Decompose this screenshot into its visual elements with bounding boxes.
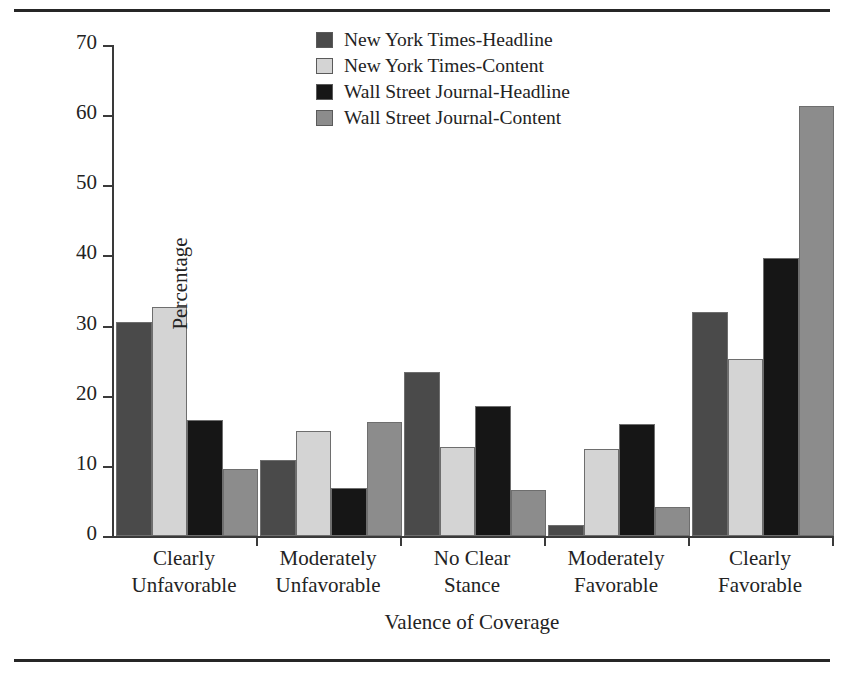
- bar: [475, 406, 511, 536]
- x-axis-label: ClearlyUnfavorable: [112, 545, 256, 599]
- x-axis-labels: ClearlyUnfavorableModeratelyUnfavorableN…: [112, 545, 832, 607]
- bar: [511, 490, 547, 536]
- y-axis-tick: 10: [103, 466, 112, 468]
- bar: [440, 447, 476, 536]
- bar: [296, 431, 332, 536]
- x-axis-label: ModeratelyUnfavorable: [256, 545, 400, 599]
- top-rule: [14, 9, 830, 12]
- y-axis-tick: 40: [103, 255, 112, 257]
- y-tick-mark: [103, 536, 112, 538]
- y-tick-label: 70: [76, 32, 97, 53]
- y-tick-mark: [103, 185, 112, 187]
- chart-figure: New York Times-Headline New York Times-C…: [0, 0, 844, 680]
- x-axis-label: ModeratelyFavorable: [544, 545, 688, 599]
- bar: [404, 372, 440, 536]
- y-tick-label: 0: [87, 523, 98, 544]
- y-axis-title: Percentage: [170, 184, 191, 384]
- x-axis-label: ClearlyFavorable: [688, 545, 832, 599]
- bar-group: [548, 45, 690, 536]
- bar: [619, 424, 655, 536]
- y-tick-mark: [103, 396, 112, 398]
- bar-groups: [112, 45, 832, 536]
- bar: [223, 469, 259, 536]
- y-axis-tick: 50: [103, 185, 112, 187]
- bottom-rule: [14, 659, 830, 662]
- y-tick-label: 60: [76, 102, 97, 123]
- x-axis-line: [112, 536, 832, 538]
- y-tick-mark: [103, 255, 112, 257]
- y-tick-label: 40: [76, 242, 97, 263]
- y-axis-tick: 60: [103, 115, 112, 117]
- bar-group: [260, 45, 402, 536]
- y-tick-mark: [103, 466, 112, 468]
- plot-area: 010203040506070 Percentage: [112, 45, 832, 536]
- bar: [763, 258, 799, 536]
- y-axis-tick: 0: [103, 536, 112, 538]
- y-tick-label: 20: [76, 383, 97, 404]
- y-axis-tick: 70: [103, 45, 112, 47]
- bar: [655, 507, 691, 536]
- bar: [260, 460, 296, 536]
- y-tick-mark: [103, 326, 112, 328]
- bar-group: [692, 45, 834, 536]
- bar: [692, 312, 728, 536]
- x-axis-tick: [832, 536, 834, 546]
- y-tick-mark: [103, 115, 112, 117]
- bar: [331, 488, 367, 536]
- bar: [584, 449, 620, 536]
- x-axis-title: Valence of Coverage: [112, 612, 832, 633]
- y-tick-label: 50: [76, 172, 97, 193]
- bar: [799, 106, 835, 536]
- y-tick-label: 10: [76, 453, 97, 474]
- bar: [548, 525, 584, 536]
- bar: [116, 322, 152, 536]
- x-axis-label: No ClearStance: [400, 545, 544, 599]
- bar-group: [404, 45, 546, 536]
- y-tick-mark: [103, 45, 112, 47]
- y-tick-label: 30: [76, 313, 97, 334]
- bar: [728, 359, 764, 536]
- bar: [187, 420, 223, 536]
- bar: [367, 422, 403, 536]
- y-axis-tick: 20: [103, 396, 112, 398]
- y-axis-tick: 30: [103, 326, 112, 328]
